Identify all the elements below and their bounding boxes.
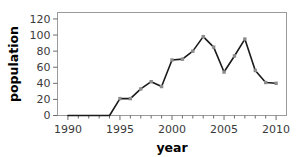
y-tick-label: 80 <box>37 45 51 58</box>
x-tick-label: 2005 <box>210 123 238 136</box>
y-tick-label: 120 <box>30 13 51 26</box>
data-point-marker <box>139 87 142 90</box>
x-tick-label: 1990 <box>54 123 82 136</box>
y-tick-label: 0 <box>44 109 51 122</box>
data-point-marker <box>264 81 267 84</box>
x-tick-label: 2010 <box>262 123 290 136</box>
y-tick-label: 20 <box>37 93 51 106</box>
data-point-marker <box>118 97 121 100</box>
data-point-marker <box>212 45 215 48</box>
x-axis-title: year <box>156 140 188 155</box>
data-point-marker <box>160 85 163 88</box>
x-tick-label: 2000 <box>158 123 186 136</box>
chart-canvas: 020406080100120 19901995200020052010 pop… <box>0 0 301 157</box>
data-point-marker <box>222 70 225 73</box>
y-tick-label: 40 <box>37 77 51 90</box>
data-point-marker <box>202 35 205 38</box>
data-point-marker <box>149 80 152 83</box>
data-point-marker <box>170 58 173 61</box>
data-point-marker <box>191 49 194 52</box>
y-tick-label: 100 <box>30 29 51 42</box>
data-point-marker <box>181 57 184 60</box>
data-point-marker <box>254 69 257 72</box>
x-tick-label: 1995 <box>106 123 134 136</box>
data-point-marker <box>243 37 246 40</box>
y-axis-title: population <box>6 26 21 102</box>
data-point-marker <box>233 54 236 57</box>
data-point-marker <box>274 82 277 85</box>
data-point-marker <box>129 97 132 100</box>
y-tick-label: 60 <box>37 61 51 74</box>
